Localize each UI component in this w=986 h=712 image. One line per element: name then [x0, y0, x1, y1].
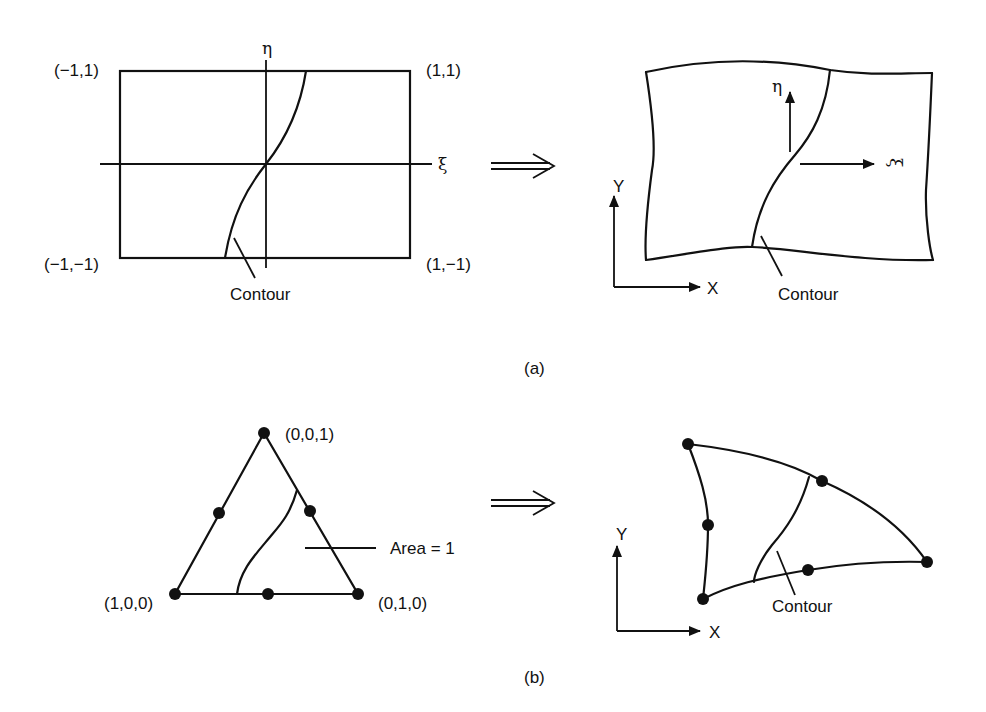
mapped-node-5 [697, 593, 709, 605]
node-mid-left [213, 507, 225, 519]
corner-label-bottom-left: (−1,−1) [44, 255, 99, 274]
triangle-boundary [175, 433, 358, 594]
mapped-contour-label: Contour [772, 597, 833, 616]
mapped-node-1 [682, 438, 694, 450]
contour-label: Contour [230, 285, 291, 304]
node-top [258, 427, 270, 439]
local-eta-label: η [772, 76, 782, 96]
panel-b: (0,0,1) (1,0,0) (0,1,0) Area = 1 Contour [104, 425, 933, 687]
node-mid-bottom [262, 588, 274, 600]
caption-b: (b) [524, 668, 545, 687]
node-bottom-right [352, 588, 364, 600]
isoparametric-mapping-figure: η ξ (−1,1) (1,1) (−1,−1) (1,−1) Contour … [0, 0, 986, 712]
mapped-node-6 [702, 519, 714, 531]
caption-a: (a) [524, 359, 545, 378]
parent-triangle-element: (0,0,1) (1,0,0) (0,1,0) Area = 1 [104, 425, 455, 613]
mapped-right-edge [926, 73, 933, 260]
mapped-left-edge [645, 72, 653, 260]
mapped-top-edge [646, 61, 932, 74]
vertex-label-bottom-right: (0,1,0) [378, 594, 427, 613]
mapped-hyp-edge [688, 444, 927, 562]
mapped-quad-element: η ξ Contour [645, 61, 933, 304]
mapped-bottom-edge [646, 247, 933, 260]
mapped-node-4 [802, 564, 814, 576]
mapped-node-2 [816, 475, 828, 487]
parent-quad-element: η ξ (−1,1) (1,1) (−1,−1) (1,−1) Contour [44, 38, 471, 304]
global-y-label: Y [613, 177, 624, 196]
triangle-contour-curve [237, 490, 297, 594]
area-label: Area = 1 [390, 539, 455, 558]
mapped-triangle-element: Contour [682, 438, 933, 616]
global-y-label: Y [616, 525, 627, 544]
corner-label-top-right: (1,1) [426, 61, 461, 80]
mapped-contour-label: Contour [778, 285, 839, 304]
global-x-label: X [707, 279, 718, 298]
mapping-arrow-b [491, 491, 554, 515]
corner-label-top-left: (−1,1) [54, 61, 99, 80]
global-x-label: X [709, 623, 720, 642]
panel-a: η ξ (−1,1) (1,1) (−1,−1) (1,−1) Contour … [44, 38, 933, 378]
node-bottom-left [169, 588, 181, 600]
local-xi-label: ξ [886, 158, 906, 167]
mapping-arrow-a [491, 154, 554, 178]
corner-label-bottom-right: (1,−1) [426, 255, 471, 274]
vertex-label-bottom-left: (1,0,0) [104, 594, 153, 613]
mapped-contour-leader-line [761, 236, 782, 276]
node-mid-right [304, 505, 316, 517]
xi-axis-label: ξ [438, 154, 447, 174]
vertex-label-top: (0,0,1) [285, 425, 334, 444]
mapped-contour-curve [752, 70, 830, 247]
mapped-node-3 [921, 556, 933, 568]
global-axes-a: Y X [613, 177, 718, 298]
mapped-bottom-edge [703, 562, 927, 599]
eta-axis-label: η [262, 38, 272, 58]
mapped-contour-curve [754, 477, 809, 582]
